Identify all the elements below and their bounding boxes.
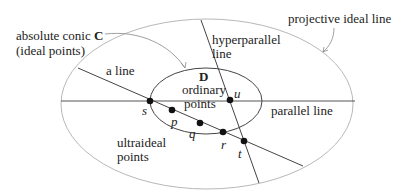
point-q-label: q — [189, 127, 196, 140]
ultraideal-points-label-line2: points — [117, 150, 149, 163]
point-p-label: p — [171, 115, 178, 128]
point-q — [197, 120, 204, 127]
absolute-conic-symbol: C — [94, 28, 103, 43]
ordinary-points-label-line1: ordinary — [182, 83, 226, 96]
absolute-conic-label: absolute conic C — [16, 29, 103, 42]
a-line-label: a line — [106, 64, 135, 77]
hyperparallel-label-line2: line — [212, 47, 232, 60]
point-u — [227, 97, 234, 104]
point-r-label: r — [221, 138, 226, 151]
point-t-label: t — [238, 147, 242, 160]
point-u-label: u — [234, 87, 241, 100]
ultraideal-points-label-line1: ultraideal — [117, 136, 166, 149]
point-s-label: s — [142, 104, 147, 117]
projective-ideal-line-pointer — [323, 28, 334, 52]
parallel-line-label: parallel line — [271, 104, 333, 117]
hyperparallel-label-line1: hyperparallel — [212, 33, 281, 46]
absolute-conic-text: absolute conic — [16, 28, 91, 43]
ordinary-points-label-line2: points — [184, 97, 216, 110]
ideal-points-label: (ideal points) — [16, 44, 85, 57]
projective-ideal-line-label: projective ideal line — [288, 12, 391, 25]
point-p — [169, 107, 176, 114]
point-r — [220, 129, 227, 136]
point-t — [241, 138, 248, 145]
point-s — [147, 98, 154, 105]
